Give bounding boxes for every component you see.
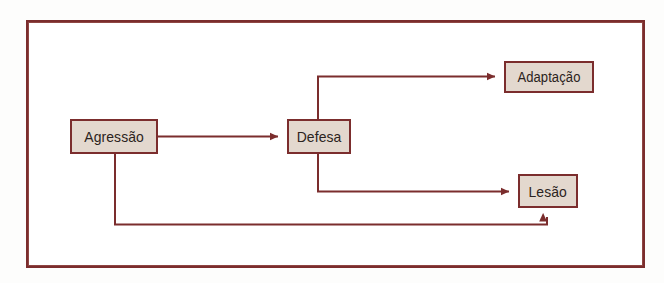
node-lesao-label: Lesão <box>529 184 567 199</box>
diagram-canvas: Agressão Defesa Adaptação Lesão <box>0 0 664 283</box>
node-agressao-label: Agressão <box>84 129 144 144</box>
node-defesa-label: Defesa <box>297 129 342 144</box>
node-agressao[interactable]: Agressão <box>70 119 158 154</box>
node-adaptacao-label: Adaptação <box>517 70 580 84</box>
node-adaptacao[interactable]: Adaptação <box>504 61 594 93</box>
node-lesao[interactable]: Lesão <box>518 174 578 208</box>
node-defesa[interactable]: Defesa <box>287 119 351 154</box>
